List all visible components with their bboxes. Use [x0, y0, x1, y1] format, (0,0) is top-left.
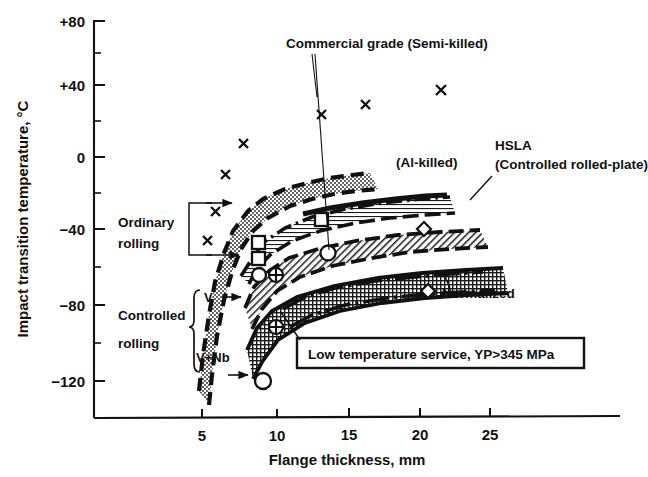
- impact-transition-temperature-chart: +80 +40 0 −40 −80 −120 5 10 15 20 25 Fla…: [0, 0, 648, 477]
- boxed-note-label: Low temperature service, YP>345 MPa: [308, 347, 555, 362]
- annotation-commercial-grade-label: Commercial grade (Semi-killed): [286, 36, 488, 51]
- annotation-al-killed: (Al-killed): [396, 155, 458, 170]
- annotation-normalized-label: Normalized: [442, 286, 515, 301]
- annotation-v-nb-label: V+Nb: [196, 350, 230, 365]
- x-axis-title: Flange thickness, mm: [269, 451, 426, 468]
- y-tick-label-0: 0: [77, 149, 85, 166]
- annotation-ordinary-line1: Ordinary: [118, 215, 175, 230]
- annotation-controlled-line2: rolling: [118, 336, 159, 351]
- y-tick-label-m40: −40: [60, 221, 85, 238]
- x-tick-label-10: 10: [269, 427, 286, 444]
- y-tick-label-m80: −80: [60, 297, 85, 314]
- y-tick-label-m120: −120: [51, 373, 85, 390]
- x-tick-label-15: 15: [341, 426, 358, 443]
- annotation-v-label: V: [204, 290, 213, 305]
- x-tick-label-25: 25: [482, 426, 499, 443]
- annotation-hsla-label-line1: HSLA: [495, 138, 532, 153]
- annotation-controlled-line1: Controlled: [118, 308, 186, 323]
- annotation-ordinary-line2: rolling: [118, 236, 159, 251]
- x-tick-label-5: 5: [198, 427, 206, 444]
- y-tick-label-80: +80: [60, 13, 85, 30]
- annotation-al-killed-label: (Al-killed): [396, 155, 458, 170]
- annotation-hsla-label-line2: (Controlled rolled-plate): [495, 157, 648, 172]
- y-tick-label-40: +40: [60, 77, 85, 94]
- x-tick-label-20: 20: [412, 426, 429, 443]
- y-axis-title: Impact transition temperature, °C: [14, 100, 31, 337]
- canvas-background: [0, 0, 648, 477]
- chart-figure: +80 +40 0 −40 −80 −120 5 10 15 20 25 Fla…: [0, 0, 648, 477]
